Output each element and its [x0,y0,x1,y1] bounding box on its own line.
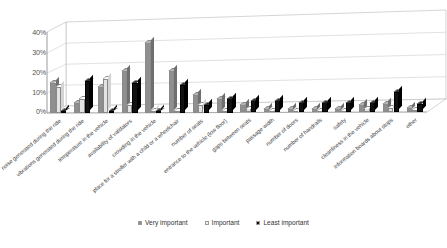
bar-side-face [351,97,354,110]
bar [132,83,137,113]
bar-front-face [299,102,304,112]
bar-side-face [108,73,111,110]
legend-item-important: Important [205,219,240,226]
bar-side-face [185,79,188,110]
bar-front-face [204,105,209,113]
bar-side-face [222,93,225,110]
bar [103,79,108,113]
bar [417,104,422,112]
bar [251,100,256,112]
chart-legend: Very important Important Least important [0,219,447,226]
bar [346,102,351,112]
bar [56,87,61,113]
legend-item-least-important: Least important [256,219,308,226]
bar-front-face [417,104,422,112]
legend-label-least-important: Least important [263,219,308,226]
legend-item-very-important: Very important [138,219,188,226]
bar-front-face [156,111,161,113]
bar [275,100,280,112]
bar [169,70,174,112]
bar [156,111,161,113]
chart-container: 40% 30% 20% 10% 0% noise generated durin… [0,0,447,248]
legend-label-very-important: Very important [145,219,188,226]
bar [394,92,399,112]
bar-side-face [304,97,307,110]
legend-swatch-important [205,221,209,225]
bar [227,98,232,112]
bar-side-face [328,97,331,110]
bar-front-face [132,83,137,113]
bar-side-face [174,65,177,110]
bar-front-face [145,42,150,112]
bar-front-face [61,111,66,113]
bar [204,105,209,113]
bar-side-face [233,93,236,110]
bar [370,102,375,112]
bar [109,111,114,113]
bar-side-face [209,99,212,110]
bar-side-face [138,77,141,110]
bar [145,42,150,112]
bar-side-face [399,87,402,110]
bar [180,85,185,113]
bar-side-face [280,95,283,110]
legend-swatch-least-important [256,221,260,225]
bars-layer [0,0,447,130]
bar-side-face [151,37,154,110]
bar [85,81,90,113]
bar [322,102,327,112]
bar-side-face [256,95,259,110]
bar-side-face [375,97,378,110]
bar [299,102,304,112]
bar-front-face [227,98,232,112]
bar-front-face [394,92,399,112]
bar-side-face [90,75,93,110]
bar-side-face [423,99,426,110]
bar-front-face [109,111,114,113]
bar-front-face [322,102,327,112]
bar [61,111,66,113]
legend-label-important: Important [212,219,240,226]
legend-swatch-very-important [138,221,142,225]
bar-side-face [61,81,64,110]
